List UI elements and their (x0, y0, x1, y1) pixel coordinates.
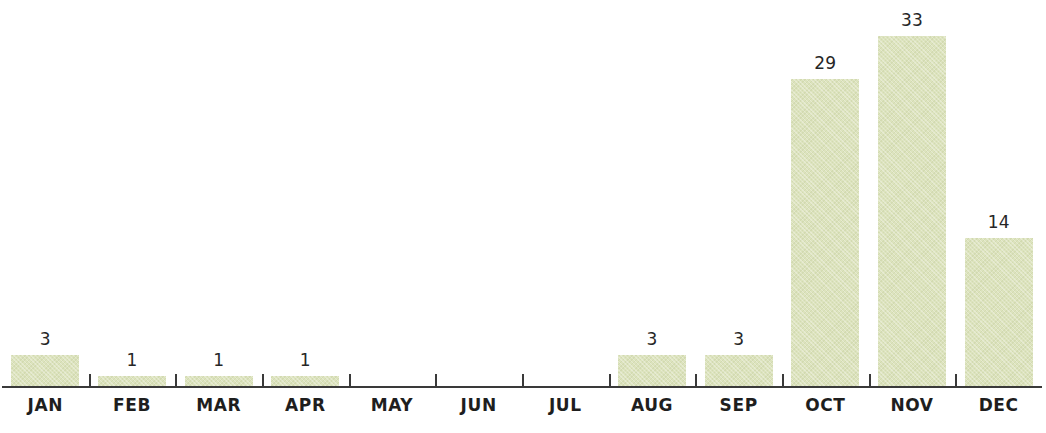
bar-group-sep: 3 (695, 0, 782, 387)
axis-tick (89, 374, 91, 387)
bar-group-apr: 1 (262, 0, 349, 387)
axis-tick (695, 374, 697, 387)
category-label-sep: SEP (720, 395, 758, 415)
axis-tick (955, 374, 957, 387)
axis-tick (262, 374, 264, 387)
bar-group-oct: 29 (782, 0, 869, 387)
bar-group-jul (522, 0, 609, 387)
bar-group-jan: 3 (2, 0, 89, 387)
bar-value-label-oct: 29 (814, 53, 836, 73)
bar-aug[interactable] (618, 355, 686, 387)
bar-value-label-aug: 3 (646, 329, 657, 349)
bar-chart: 311133293314 JANFEBMARAPRMAYJUNJULAUGSEP… (0, 0, 1046, 433)
bar-value-label-nov: 33 (901, 10, 923, 30)
bar-group-nov: 33 (869, 0, 956, 387)
bar-value-label-apr: 1 (300, 350, 311, 370)
bar-value-label-mar: 1 (213, 350, 224, 370)
bar-group-mar: 1 (175, 0, 262, 387)
axis-tick (435, 374, 437, 387)
bar-nov[interactable] (878, 36, 946, 387)
category-label-mar: MAR (196, 395, 241, 415)
category-label-oct: OCT (805, 395, 845, 415)
bar-group-aug: 3 (609, 0, 696, 387)
axis-tick (609, 374, 611, 387)
bar-group-may (349, 0, 436, 387)
category-label-jan: JAN (28, 395, 64, 415)
axis-tick (869, 374, 871, 387)
bar-value-label-sep: 3 (733, 329, 744, 349)
bar-value-label-feb: 1 (126, 350, 137, 370)
bar-jan[interactable] (11, 355, 79, 387)
category-label-nov: NOV (890, 395, 933, 415)
category-label-dec: DEC (979, 395, 1019, 415)
bar-oct[interactable] (791, 79, 859, 387)
category-label-jun: JUN (461, 395, 497, 415)
bar-group-jun (435, 0, 522, 387)
category-label-feb: FEB (113, 395, 151, 415)
bar-group-feb: 1 (89, 0, 176, 387)
x-axis-category-labels: JANFEBMARAPRMAYJUNJULAUGSEPOCTNOVDEC (0, 392, 1046, 433)
category-label-aug: AUG (631, 395, 673, 415)
bar-dec[interactable] (965, 238, 1033, 387)
category-label-jul: JUL (549, 395, 582, 415)
axis-tick (349, 374, 351, 387)
axis-tick (782, 374, 784, 387)
category-label-may: MAY (371, 395, 414, 415)
bar-value-label-jan: 3 (40, 329, 51, 349)
bar-value-label-dec: 14 (988, 212, 1010, 232)
category-label-apr: APR (285, 395, 326, 415)
axis-tick (522, 374, 524, 387)
plot-area: 311133293314 (0, 0, 1046, 387)
bar-sep[interactable] (705, 355, 773, 387)
axis-tick (175, 374, 177, 387)
bar-group-dec: 14 (955, 0, 1042, 387)
